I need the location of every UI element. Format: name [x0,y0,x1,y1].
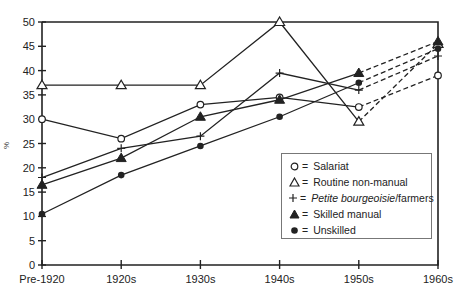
svg-text:5: 5 [29,235,35,247]
legend-equals: = [302,208,308,220]
legend-item-petite-bourgeoisie: = Petite bourgeoisie/farmers [288,190,431,206]
line-chart: 05101520253035404550Pre-19201920s1930s19… [0,0,464,301]
legend-equals: = [302,224,308,236]
svg-text:10: 10 [23,210,35,222]
legend-equals: = [300,192,306,204]
svg-text:20: 20 [23,162,35,174]
open-circle-icon [288,162,300,171]
legend-equals: = [302,160,308,172]
legend-label-rest: /farmers [395,192,434,204]
legend-item-routine-non-manual: = Routine non-manual [288,174,431,190]
legend-label: Skilled manual [313,208,381,220]
open-triangle-icon [288,177,300,187]
svg-text:30: 30 [23,113,35,125]
svg-text:25: 25 [23,138,35,150]
svg-text:35: 35 [23,89,35,101]
svg-text:1940s: 1940s [265,273,295,285]
svg-text:1920s: 1920s [106,273,136,285]
svg-text:1930s: 1930s [185,273,215,285]
filled-circle-icon [288,226,300,235]
legend-item-skilled-manual: = Skilled manual [288,206,431,222]
legend: = Salariat = Routine non-manual = Petite… [281,153,432,239]
legend-item-unskilled: = Unskilled [288,222,431,238]
svg-text:0: 0 [29,259,35,271]
legend-label: Salariat [313,160,349,172]
tick-labels: 05101520253035404550Pre-19201920s1930s19… [2,16,453,285]
svg-text:1950s: 1950s [344,273,374,285]
svg-text:1960s: 1960s [423,273,453,285]
svg-text:15: 15 [23,186,35,198]
filled-triangle-icon [288,209,300,219]
svg-text:50: 50 [23,16,35,28]
legend-equals: = [302,176,308,188]
legend-label-italic: Petite bourgeoisie [311,192,395,204]
legend-item-salariat: = Salariat [288,158,431,174]
svg-text:%: % [2,142,11,149]
svg-text:40: 40 [23,65,35,77]
legend-label: Routine non-manual [313,176,408,188]
svg-text:45: 45 [23,40,35,52]
svg-text:Pre-1920: Pre-1920 [19,273,64,285]
plus-icon [288,193,298,203]
legend-label: Unskilled [313,224,356,236]
